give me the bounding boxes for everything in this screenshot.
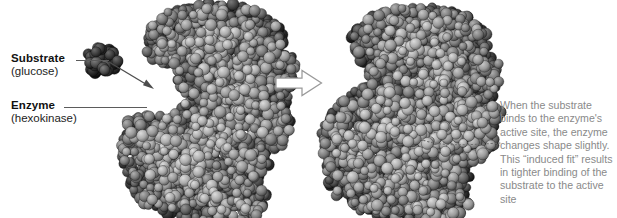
note-line-4: This “induced fit” results bbox=[500, 153, 617, 166]
substrate-callout: Substrate (glucose) bbox=[11, 52, 65, 79]
note-line-2: active site, the enzyme bbox=[500, 126, 617, 139]
binding-arrow-icon bbox=[108, 60, 160, 94]
note-line-6: substrate to the active site bbox=[500, 179, 617, 206]
enzyme-callout: Enzyme (hexokinase) bbox=[11, 99, 77, 126]
enzyme-label-subtitle: (hexokinase) bbox=[11, 112, 77, 126]
note-line-3: changes shape slightly. bbox=[500, 139, 617, 152]
enzyme-label-title: Enzyme bbox=[11, 99, 77, 112]
substrate-leader-line bbox=[76, 60, 109, 61]
hexokinase-closed-model bbox=[330, 8, 502, 214]
hexokinase-open-model bbox=[128, 2, 294, 214]
substrate-label-title: Substrate bbox=[11, 52, 65, 65]
note-line-5: in tighter binding of the bbox=[500, 166, 617, 179]
figure-canvas: Substrate (glucose) Enzyme (hexokinase) … bbox=[0, 0, 617, 218]
note-line-1: binds to the enzyme's bbox=[500, 112, 617, 125]
hexokinase-closed-svg bbox=[330, 8, 502, 214]
transition-right-arrow-icon bbox=[275, 68, 323, 98]
substrate-label-subtitle: (glucose) bbox=[11, 65, 65, 79]
hexokinase-open-svg bbox=[128, 2, 294, 214]
enzyme-leader-line bbox=[64, 107, 147, 108]
induced-fit-note: When the substratebinds to the enzyme'sa… bbox=[500, 99, 617, 206]
active-site-pointer-icon bbox=[418, 126, 502, 150]
note-line-0: When the substrate bbox=[500, 99, 617, 112]
